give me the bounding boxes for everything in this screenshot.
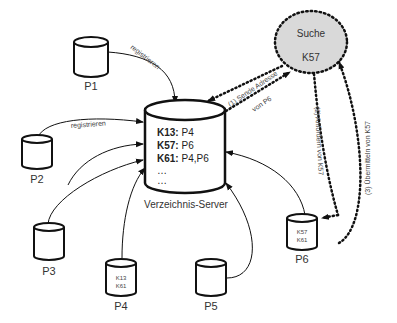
peer-p4-key-1: K61 — [116, 283, 127, 289]
peer-p2-label: P2 — [30, 173, 43, 185]
edge-p3-server — [68, 144, 143, 185]
edge-step2-arrowhead — [322, 215, 338, 218]
server-entry-k13: K13: P4 — [157, 127, 194, 138]
peer-p3: P3 — [34, 223, 64, 277]
edge-p6-server — [226, 152, 305, 215]
label-step3: (3) Übermitteln von K57 — [364, 121, 372, 195]
edge-step3-transfer — [339, 62, 360, 243]
label-step1-line1: (1) Sende Adresse — [227, 70, 280, 109]
peer-p4-key-0: K13 — [116, 275, 127, 281]
peer-p4: K13 K61 P4 — [106, 259, 136, 312]
server-entry-k61: K61: P4,P6 — [157, 153, 209, 164]
p2p-directory-diagram: Suche K57 registrieren registrieren (1) … — [0, 0, 397, 323]
edge-p5-server — [226, 183, 252, 278]
server-ellipsis-2: … — [157, 175, 167, 186]
label-p2-register: registrieren — [71, 120, 107, 130]
edge-p3b-server — [48, 160, 143, 224]
search-ellipse — [275, 11, 347, 73]
edge-p1-server — [108, 52, 175, 103]
peer-p6-key-0: K57 — [297, 229, 308, 235]
edge-p4-server — [122, 168, 145, 258]
peer-p1: P1 — [74, 37, 108, 92]
peer-p1-label: P1 — [84, 80, 97, 92]
peer-p5: P5 — [196, 259, 226, 312]
peer-p6-label: P6 — [295, 253, 308, 265]
search-key: K57 — [302, 52, 320, 63]
peer-p4-label: P4 — [114, 300, 127, 312]
search-title: Suche — [297, 28, 326, 39]
peer-p6: K57 K61 P6 — [287, 214, 317, 265]
server-label: Verzeichnis-Server — [144, 199, 229, 210]
label-step2: (2) Anfordern von K57 — [313, 107, 325, 176]
search-node: Suche K57 — [275, 11, 347, 73]
peer-p6-key-1: K61 — [297, 237, 308, 243]
label-step1-line2: von P6 — [251, 95, 273, 113]
server-top — [145, 100, 225, 120]
peer-p2: P2 — [22, 135, 52, 185]
server-entry-k57: K57: P6 — [157, 140, 194, 151]
label-p1-register: registrieren — [129, 43, 162, 71]
directory-server: K13: P4 K57: P6 K61: P4,P6 … … Verzeichn… — [144, 100, 229, 210]
peer-p5-label: P5 — [204, 300, 217, 312]
peer-p3-label: P3 — [42, 265, 55, 277]
